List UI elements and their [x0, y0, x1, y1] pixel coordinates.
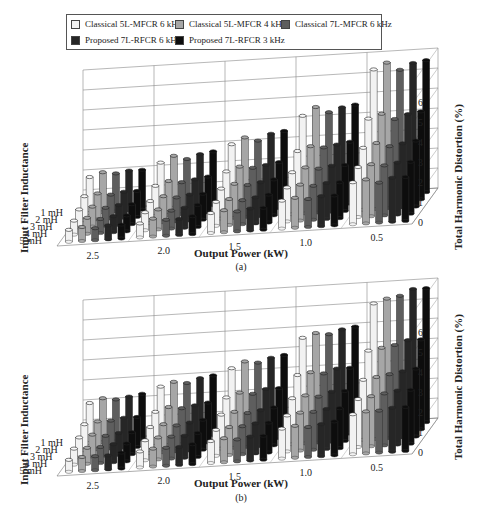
x-axis-label: Output Power (kW)	[0, 477, 482, 489]
z-tick-label: 4	[418, 367, 423, 378]
bar	[189, 443, 196, 466]
z-tick-label: 1	[418, 427, 423, 438]
x-tick-label: 2.0	[158, 475, 171, 486]
bar	[105, 454, 112, 471]
x-tick-label: 1.5	[229, 471, 242, 482]
bar	[163, 446, 170, 467]
z-tick-label: 6	[418, 327, 423, 338]
bar	[92, 455, 99, 472]
z-axis-label: Total Harmonic Distortion (%)	[452, 314, 464, 460]
bar	[278, 427, 285, 460]
y-tick-label: 5 mH	[20, 465, 43, 476]
bar	[78, 455, 85, 472]
bar	[176, 445, 183, 466]
bar	[389, 406, 396, 453]
bar	[247, 435, 254, 462]
bar	[136, 450, 143, 469]
z-tick-label: 0	[418, 447, 423, 458]
bar	[331, 420, 338, 457]
bar	[260, 434, 267, 461]
bars	[65, 287, 429, 474]
bar	[149, 447, 156, 468]
figure-caption: (b)	[0, 492, 482, 503]
bar	[305, 425, 312, 458]
z-tick-label: 2	[418, 407, 423, 418]
z-tick-label: 5	[418, 347, 423, 358]
bar	[65, 458, 72, 473]
z-tick-label: 3	[418, 387, 423, 398]
x-tick-label: 1.0	[300, 467, 313, 478]
bar	[402, 405, 409, 452]
x-tick-label: 0.5	[371, 462, 384, 473]
bar	[291, 424, 298, 459]
bar	[118, 451, 125, 470]
thd-chart-b: Input Filter Inductance Total Harmonic D…	[0, 0, 482, 513]
plot-area	[0, 0, 482, 513]
bar	[207, 439, 214, 464]
bar	[362, 410, 369, 455]
bar	[349, 413, 356, 456]
bar	[318, 423, 325, 458]
bar	[234, 438, 241, 463]
bar	[220, 437, 227, 464]
bar	[376, 409, 383, 454]
x-tick-label: 2.5	[87, 480, 100, 491]
